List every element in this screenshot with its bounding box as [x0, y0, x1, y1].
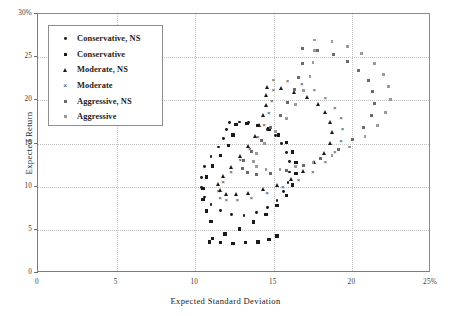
marker-square-light: [294, 165, 297, 168]
marker-square-light: [364, 135, 367, 138]
x-tick-label: 25%: [423, 278, 437, 286]
legend-marker: ×: [60, 80, 71, 91]
y-tick-label: 5: [6, 225, 32, 233]
marker-square: [64, 53, 68, 57]
marker-square-light: [331, 154, 334, 157]
marker-dot: [64, 37, 67, 40]
marker-square-light: [382, 73, 385, 76]
marker-square-light: [346, 45, 349, 48]
marker-square-light: [373, 62, 376, 65]
marker-square-light: [313, 49, 316, 52]
y-tick-label: 0: [6, 268, 32, 276]
marker-square-light: [255, 152, 258, 155]
legend-item: Aggressive: [49, 109, 162, 125]
x-tick-label: 10: [190, 278, 198, 286]
legend-label: Aggressive: [77, 112, 116, 121]
legend-label: Moderate: [77, 81, 113, 90]
marker-square-light: [389, 98, 392, 101]
marker-square-light: [376, 124, 379, 127]
y-tick-mark: [34, 272, 38, 273]
x-tick-label: 15: [269, 278, 277, 286]
legend-item: Conservative, NS: [49, 31, 162, 47]
x-axis-title: Expected Standard Deviation: [0, 296, 451, 306]
marker-square-light: [285, 117, 288, 120]
x-tick-label: 20: [348, 278, 356, 286]
marker-square-light: [313, 39, 316, 42]
marker-square-light: [331, 40, 334, 43]
legend-marker: [60, 96, 71, 107]
marker-square-light: [294, 103, 297, 106]
marker-square-light: [387, 85, 390, 88]
legend-marker: [60, 49, 71, 60]
marker-square-light: [348, 146, 351, 149]
marker-square-light: [263, 142, 266, 145]
marker-square-light: [302, 89, 305, 92]
scatter-chart: Expected Return 051015202530% ××××××××××…: [0, 0, 451, 316]
legend-item: Conservative: [49, 47, 162, 63]
marker-square-light: [279, 168, 282, 171]
y-tick-label: 15: [6, 139, 32, 147]
legend-label: Moderate, NS: [77, 65, 128, 74]
marker-square-light: [265, 168, 268, 171]
legend-marker: [60, 64, 71, 75]
y-tick-label: 20: [6, 95, 32, 103]
x-tick-label: 0: [35, 278, 39, 286]
marker-square-light: [274, 130, 277, 133]
legend-marker: [60, 111, 71, 122]
legend-label: Conservative: [77, 50, 125, 59]
marker-square-light: [64, 115, 67, 118]
marker-square-light: [255, 165, 258, 168]
x-tick-label: 5: [114, 278, 118, 286]
marker-square-light: [252, 160, 255, 163]
marker-square-light: [360, 52, 363, 55]
legend-label: Aggressive, NS: [77, 97, 132, 106]
marker-square-light: [384, 111, 387, 114]
legend-marker: [60, 33, 71, 44]
y-tick-label: 10: [6, 182, 32, 190]
legend-item: Aggressive, NS: [49, 93, 162, 109]
marker-square-light: [309, 75, 312, 78]
legend: Conservative, NSConservativeModerate, NS…: [48, 25, 163, 126]
legend-item: Moderate, NS: [49, 62, 162, 78]
marker-x: ×: [63, 83, 67, 90]
marker-square-light: [312, 61, 315, 64]
marker-square-open: [64, 100, 67, 103]
y-tick-label: 30%: [6, 9, 32, 17]
marker-square-light: [312, 161, 315, 164]
marker-triangle: [63, 68, 67, 72]
y-tick-label: 25: [6, 52, 32, 60]
legend-label: Conservative, NS: [77, 34, 140, 43]
legend-item: ×Moderate: [49, 78, 162, 94]
